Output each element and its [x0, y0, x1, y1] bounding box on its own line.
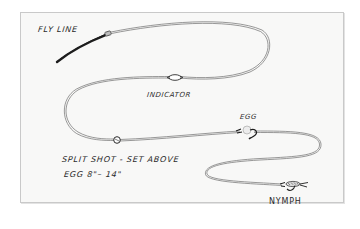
rig-diagram: [0, 0, 360, 229]
fly-line-label: FLY LINE: [38, 25, 79, 34]
indicator-label: INDICATOR: [147, 91, 192, 99]
nymph-label: NYMPH: [269, 197, 302, 206]
split-shot-icon: [114, 137, 121, 144]
split-shot-label-line1: SPLIT SHOT - SET ABOVE: [62, 155, 180, 164]
fly-line-icon: [57, 31, 111, 62]
egg-fly-icon: [236, 126, 257, 139]
split-shot-label-line2: EGG 8"– 14": [64, 170, 123, 179]
nymph-fly-icon: [280, 181, 308, 190]
indicator-icon: [167, 75, 183, 81]
egg-label: EGG: [240, 113, 258, 121]
